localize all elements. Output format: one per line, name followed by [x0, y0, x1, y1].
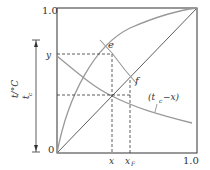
e-f-line [100, 40, 137, 84]
curve-label-suffix: −x) [163, 92, 180, 102]
point-e-label: e [108, 39, 114, 50]
tc-sub: c [26, 92, 33, 96]
point-f-label: f [134, 75, 141, 86]
y-axis-label: t/°C [10, 80, 20, 98]
origin-label: 0 [48, 144, 54, 155]
xf-tick-main: x [125, 156, 130, 166]
curve-label-leader [155, 104, 157, 112]
y-tick-label: y [45, 50, 52, 60]
phase-diagram: 1.0 0 1.0 y t/°C t c x x F e f (t c −x) [0, 0, 210, 170]
curve-label-prefix: (t [148, 92, 156, 102]
y-top-label: 1.0 [42, 5, 58, 16]
x-tick-label: x [109, 156, 114, 166]
xf-tick-sub: F [130, 160, 136, 167]
up-arrow-icon [34, 41, 38, 47]
x-right-label: 1.0 [183, 155, 199, 166]
down-arrow-icon [34, 145, 38, 151]
tc-tick-label: t c [21, 92, 33, 99]
